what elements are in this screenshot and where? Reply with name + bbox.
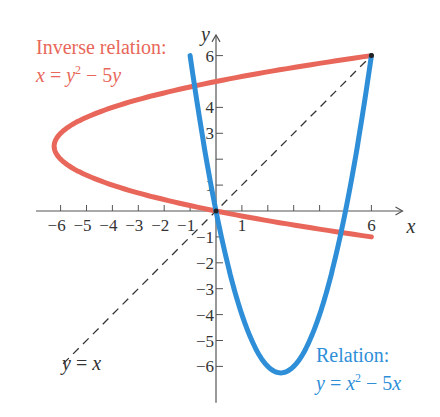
y-tick-label: −2: [196, 254, 214, 273]
intersection-point-origin: [214, 209, 219, 214]
x-tick-label: −2: [151, 216, 169, 235]
relation-annotation: Relation: y = x2 − 5x: [316, 344, 401, 395]
identity-line-annotation: y = x: [62, 352, 101, 375]
relation-equation: y = x2 − 5x: [316, 367, 401, 395]
y-tick-label: −4: [196, 306, 215, 325]
y-axis-label: y: [199, 23, 210, 46]
x-tick-label: −6: [48, 216, 66, 235]
x-tick-label: 6: [367, 216, 376, 235]
y-tick-label: −6: [196, 357, 214, 376]
x-tick-label: −4: [99, 216, 118, 235]
inverse-relation-equation: x = y2 − 5y: [36, 59, 167, 87]
x-tick-label: −3: [125, 216, 143, 235]
x-tick-label: −5: [73, 216, 91, 235]
x-axis-label: x: [405, 215, 415, 237]
intersection-point-6-6: [369, 53, 374, 58]
y-tick-label: −5: [196, 332, 214, 351]
inverse-relation-annotation: Inverse relation: x = y2 − 5y: [36, 36, 167, 87]
y-tick-label: −3: [196, 280, 214, 299]
relation-curve: [190, 56, 371, 373]
y-tick-label: 4: [206, 98, 215, 117]
inverse-relation-title: Inverse relation:: [36, 36, 167, 59]
y-tick-label: −1: [196, 228, 214, 247]
y-tick-label: 6: [206, 47, 215, 66]
relation-title: Relation:: [316, 344, 401, 367]
y-tick-label: 3: [206, 124, 215, 143]
x-tick-label: −1: [177, 216, 195, 235]
